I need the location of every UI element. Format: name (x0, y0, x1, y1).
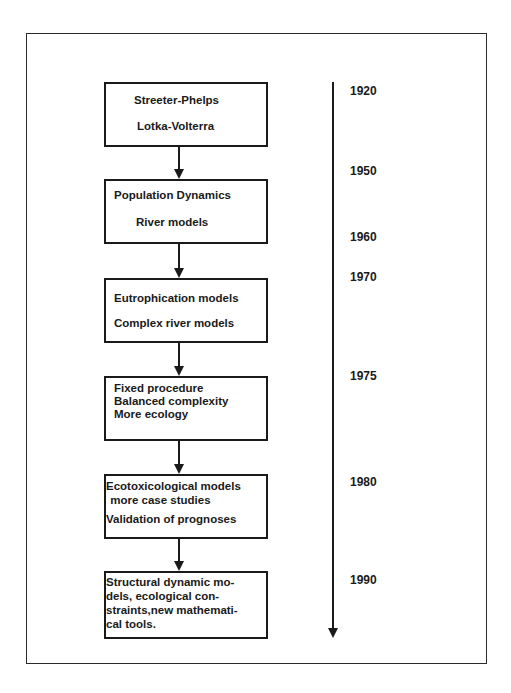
flow-arrow-1-shaft (178, 147, 180, 171)
timeline-year-1950: 1950 (350, 164, 377, 178)
flow-arrow-2-shaft (178, 244, 180, 270)
timeline-year-1990: 1990 (350, 573, 377, 587)
timeline-year-1960: 1960 (350, 230, 377, 244)
stage-1-line-2: Lotka-Volterra (137, 120, 214, 132)
stage-1-line-1: Streeter-Phelps (134, 94, 219, 106)
stage-4-line-2: Balanced complexity (114, 395, 228, 407)
timeline-year-1975: 1975 (350, 369, 377, 383)
flow-arrow-2-head (174, 268, 184, 278)
flow-arrow-5-head (174, 561, 184, 571)
timeline-axis (332, 82, 334, 630)
stage-6-line-1: Structural dynamic mo- (106, 576, 234, 588)
stage-box-2: Population Dynamics River models (104, 179, 268, 244)
stage-5-line-1: Ecotoxicological models (106, 480, 241, 492)
stage-box-5: Ecotoxicological models more case studie… (104, 474, 268, 539)
flow-arrow-4-head (174, 464, 184, 474)
stage-6-line-4: cal tools. (106, 618, 156, 630)
stage-box-1: Streeter-Phelps Lotka-Volterra (104, 82, 268, 147)
stage-2-line-1: Population Dynamics (114, 189, 231, 201)
stage-box-4: Fixed procedure Balanced complexity More… (104, 376, 268, 441)
timeline-arrow-head (328, 628, 338, 638)
stage-box-3: Eutrophication models Complex river mode… (104, 278, 268, 343)
flow-arrow-3-head (174, 366, 184, 376)
stage-5-line-2: more case studies (107, 494, 211, 506)
timeline-year-1970: 1970 (350, 270, 377, 284)
stage-3-line-1: Eutrophication models (114, 292, 239, 304)
flow-arrow-3-shaft (178, 343, 180, 368)
flow-arrow-4-shaft (178, 441, 180, 466)
timeline-year-1980: 1980 (350, 475, 377, 489)
stage-6-line-3: straints,new mathemati- (106, 604, 238, 616)
stage-4-line-1: Fixed procedure (114, 382, 203, 394)
stage-2-line-2: River models (136, 216, 208, 228)
flow-arrow-1-head (174, 169, 184, 179)
stage-6-line-2: dels, ecological con- (106, 590, 219, 602)
stage-4-line-3: More ecology (114, 408, 188, 420)
timeline-year-1920: 1920 (350, 84, 377, 98)
stage-box-6: Structural dynamic mo- dels, ecological … (104, 571, 268, 639)
stage-5-line-3: Validation of prognoses (106, 513, 236, 525)
flow-arrow-5-shaft (178, 539, 180, 563)
stage-3-line-2: Complex river models (114, 317, 234, 329)
